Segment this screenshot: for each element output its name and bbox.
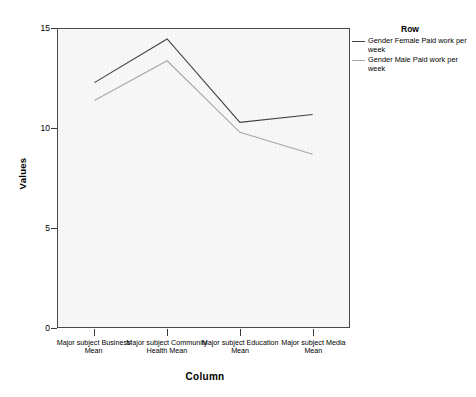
y-axis-title: Values (17, 144, 28, 204)
x-category-label-2: Major subject Education Mean (198, 339, 282, 356)
x-category-label-3: Major subject Media Mean (271, 339, 355, 356)
legend-item-0[interactable]: Gender Female Paid work per week (352, 37, 476, 54)
y-tick-label-5: 5 (34, 224, 50, 233)
legend-swatch-icon-1 (352, 56, 365, 64)
x-tick-3 (313, 329, 314, 336)
legend: Row Gender Female Paid work per weekGend… (352, 24, 476, 75)
legend-title: Row (354, 24, 466, 34)
x-category-label-0: Major subject Business Mean (52, 339, 136, 356)
legend-item-label-1: Gender Male Paid work per week (368, 56, 472, 73)
legend-item-label-0: Gender Female Paid work per week (368, 37, 472, 54)
y-tick-0 (51, 328, 57, 329)
y-tick-label-0: 0 (34, 324, 50, 333)
legend-swatch-icon-0 (352, 37, 365, 45)
plot-area (57, 28, 350, 328)
x-category-label-1: Major subject Community Health Mean (125, 339, 209, 356)
x-tick-2 (240, 329, 241, 336)
y-tick-label-10: 10 (34, 124, 50, 133)
x-axis-title: Column (0, 371, 410, 382)
x-tick-0 (94, 329, 95, 336)
y-tick-label-15: 15 (34, 24, 50, 33)
series-line-1 (94, 61, 312, 154)
legend-item-1[interactable]: Gender Male Paid work per week (352, 56, 476, 73)
line-chart: Values 051015 Major subject Business Mea… (0, 0, 476, 397)
series-line-0 (94, 39, 312, 122)
series-lines (58, 29, 349, 327)
legend-entries: Gender Female Paid work per weekGender M… (352, 37, 476, 73)
x-tick-1 (167, 329, 168, 336)
